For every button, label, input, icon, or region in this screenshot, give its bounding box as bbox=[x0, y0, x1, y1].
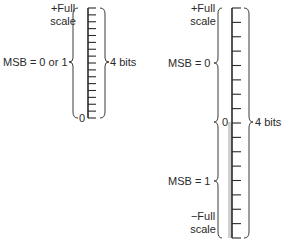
right-zero-label: 0 bbox=[222, 116, 228, 128]
right-scale-label: scale bbox=[190, 15, 216, 27]
right-bits-label: 4 bits bbox=[255, 116, 282, 128]
right-minus-full-label: −Full bbox=[191, 210, 215, 222]
right-msb-upper-label: MSB = 0 bbox=[168, 57, 211, 69]
left-scale-ticks bbox=[88, 8, 96, 118]
right-scale-ticks bbox=[232, 8, 241, 238]
diagram-canvas: +Full scale MSB = 0 or 1 0 4 bits +Full … bbox=[0, 0, 285, 246]
left-msb-label: MSB = 0 or 1 bbox=[3, 56, 68, 68]
left-scale-diagram: +Full scale MSB = 0 or 1 0 4 bits bbox=[3, 2, 137, 124]
left-zero-label: 0 bbox=[79, 112, 85, 124]
right-bottom-scale-label: scale bbox=[190, 223, 216, 235]
right-bits-brace bbox=[244, 8, 253, 238]
left-plus-full-label: +Full bbox=[51, 2, 75, 14]
right-plus-full-label: +Full bbox=[191, 2, 215, 14]
right-scale-diagram: +Full scale MSB = 0 MSB = 1 0 4 bits −Fu… bbox=[168, 2, 282, 238]
left-bits-brace bbox=[100, 8, 109, 118]
left-scale-label: scale bbox=[50, 15, 76, 27]
left-bits-label: 4 bits bbox=[110, 56, 137, 68]
right-msb-lower-label: MSB = 1 bbox=[168, 175, 211, 187]
right-lower-brace bbox=[214, 122, 222, 238]
